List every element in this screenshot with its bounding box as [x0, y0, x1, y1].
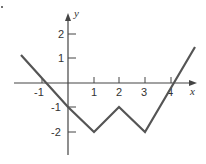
- x-ticks: [42, 77, 171, 83]
- y-axis-label: y: [73, 7, 79, 19]
- y-axis-arrow-icon: [65, 13, 71, 21]
- y-tick-label: 2: [58, 28, 64, 40]
- y-tick-label: -2: [51, 126, 61, 138]
- stray-dot: [1, 6, 3, 8]
- x-tick-label: 2: [116, 86, 122, 98]
- x-tick-label: 3: [141, 86, 147, 98]
- x-tick-label: 1: [91, 86, 97, 98]
- y-tick-label: -1: [51, 101, 61, 113]
- x-tick-label: -1: [34, 86, 44, 98]
- function-graph: -1 1 2 3 4 2 1 -1 -2 x y: [0, 0, 206, 164]
- x-axis-label: x: [189, 85, 195, 97]
- function-line: [21, 47, 195, 132]
- y-tick-label: 1: [58, 52, 64, 64]
